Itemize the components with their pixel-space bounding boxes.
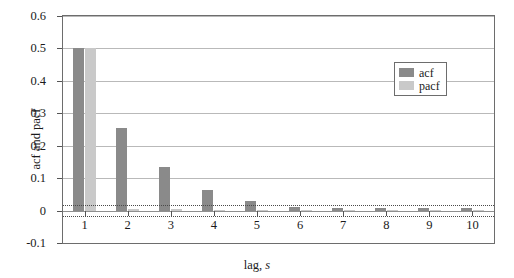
x-axis-title-symbol: s [265,258,270,272]
y-axis-tick [57,81,62,82]
y-axis-tick-label: 0.2 [30,139,46,152]
legend: acf pacf [394,62,447,96]
x-axis-tick-label: 2 [125,219,131,232]
bar-pacf-lag-2 [128,209,139,211]
y-axis-tick-label: 0.5 [30,42,46,55]
gridline [63,146,494,147]
y-axis-tick [57,178,62,179]
bar-acf-lag-9 [418,208,429,211]
bar-acf-lag-1 [73,48,84,210]
acf-pacf-correlogram-chart: acf and pacf -0.100.10.20.30.40.50.6 123… [0,0,514,278]
y-axis-tick-label: 0.4 [30,75,46,88]
bar-acf-lag-4 [202,190,213,211]
legend-label-pacf: pacf [419,80,440,92]
gridline [63,48,494,49]
bar-acf-lag-2 [116,128,127,211]
legend-label-acf: acf [419,67,434,79]
bar-acf-lag-6 [289,207,300,211]
y-axis-tick [57,243,62,244]
x-axis-tick [472,211,473,216]
y-axis-tick [57,16,62,17]
y-axis-tick [57,113,62,114]
x-axis-tick [257,211,258,216]
bar-acf-lag-3 [159,167,170,211]
bar-pacf-lag-10 [473,210,484,211]
bar-acf-lag-8 [375,208,386,211]
gridline [63,16,494,17]
x-axis-tick [429,211,430,216]
x-axis-tick-label: 7 [340,219,346,232]
bar-pacf-lag-9 [430,210,441,211]
x-axis-tick-label: 9 [426,219,432,232]
y-axis-tick-label: -0.1 [26,237,46,250]
x-axis-tick [128,211,129,216]
gridline [63,178,494,179]
legend-item-acf: acf [399,66,440,79]
bar-pacf-lag-4 [214,210,225,211]
legend-swatch-acf-icon [399,68,414,77]
bar-acf-lag-7 [332,208,343,210]
x-axis-tick-label: 1 [81,219,87,232]
x-axis-title: lag, s [0,258,514,273]
y-axis-tick-label: 0.3 [30,107,46,120]
confidence-band [63,205,494,206]
x-axis-tick-label: 10 [466,219,479,232]
x-axis-tick-label: 8 [383,219,389,232]
x-axis-tick [300,211,301,216]
x-axis-tick-label: 5 [254,219,260,232]
y-axis-tick-label: 0.6 [30,10,46,23]
x-axis-tick-label: 3 [168,219,174,232]
x-axis-tick [85,211,86,216]
x-axis-tick [214,211,215,216]
bar-pacf-lag-3 [171,209,182,210]
x-axis-tick [171,211,172,216]
bar-pacf-lag-5 [257,210,268,211]
x-axis-tick [343,211,344,216]
y-axis-tick-label: 0 [40,204,46,217]
gridline [63,113,494,114]
bar-pacf-lag-8 [387,210,398,211]
x-axis-tick-label: 4 [211,219,217,232]
bar-acf-lag-10 [461,208,472,211]
x-axis-tick [386,211,387,216]
bar-pacf-lag-1 [85,48,96,210]
x-axis-title-text: lag, [244,258,266,272]
x-axis-tick-label: 6 [297,219,303,232]
plot-inner [63,16,494,243]
y-axis-tick [57,211,62,212]
bar-pacf-lag-7 [344,210,355,211]
legend-swatch-pacf-icon [399,81,414,90]
y-axis-tick-label: 0.1 [30,172,46,185]
legend-item-pacf: pacf [399,79,440,92]
y-axis-tick [57,146,62,147]
bar-pacf-lag-6 [301,210,312,211]
y-axis-tick [57,48,62,49]
